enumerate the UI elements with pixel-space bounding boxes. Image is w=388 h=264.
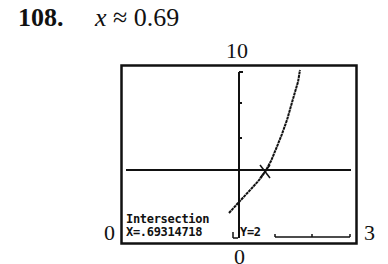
intersection-label: Intersection <box>126 212 209 226</box>
y-readout: Y=2 <box>240 225 261 239</box>
x-readout: X=.69314718 <box>126 225 202 239</box>
